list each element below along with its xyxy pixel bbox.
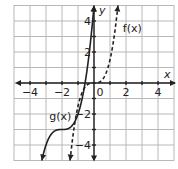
g-curve-arrow-start — [40, 154, 46, 161]
y-tick-label: 4 — [84, 15, 91, 28]
function-graph: x y 0 −4 −2 2 4 4 2 −2 −4 g(x) f(x) — [0, 0, 178, 169]
x-tick-label: 4 — [155, 86, 162, 99]
x-tick-label: −4 — [22, 86, 38, 99]
f-curve-label: f(x) — [123, 22, 142, 35]
y-axis-title: y — [98, 4, 106, 17]
x-axis-title: x — [163, 68, 171, 81]
y-tick-label: −2 — [75, 108, 91, 121]
y-tick-label: 2 — [84, 46, 91, 59]
x-tick-label: 2 — [123, 86, 130, 99]
y-tick-label: −4 — [75, 139, 91, 152]
x-axis-arrow-left — [15, 80, 21, 86]
origin-label: 0 — [97, 86, 104, 99]
x-tick-label: −2 — [54, 86, 70, 99]
x-axis-arrow-right — [170, 80, 176, 86]
g-curve-label: g(x) — [49, 110, 71, 123]
